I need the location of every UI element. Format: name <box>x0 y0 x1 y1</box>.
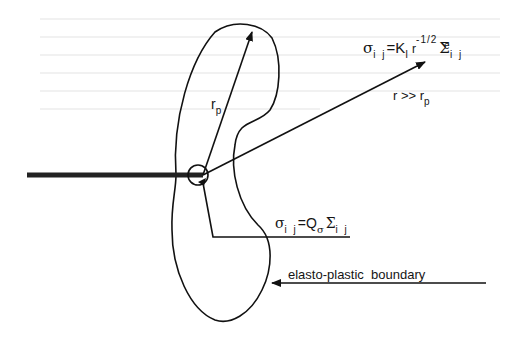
exponent: -1/2 <box>416 34 437 45</box>
ij-subscript: i j <box>285 224 298 235</box>
sigma-symbol: σ <box>275 215 285 231</box>
ij-subscript: i j <box>450 49 463 60</box>
boundary-label: elasto-plastic boundary <box>288 268 425 281</box>
sigma-subscript: σ <box>317 224 326 235</box>
Q-symbol: Q <box>306 215 317 231</box>
sigma-symbol: σ <box>363 39 373 57</box>
equals-sign: = <box>386 39 395 56</box>
ij-subscript: i j <box>336 224 349 235</box>
far-field-text: r >> r <box>393 88 424 103</box>
ij-subscript: i j <box>373 49 386 60</box>
I-subscript: I <box>405 49 410 60</box>
p-subscript: p <box>216 105 224 116</box>
elastic-stress-equation: σi j=KIr-1/2Σei j <box>363 40 463 56</box>
plastic-stress-equation: σi j=QσΣi j <box>275 216 349 230</box>
far-field-label: r >> rp <box>393 89 432 102</box>
r-symbol: r <box>211 96 216 112</box>
p-subscript: p <box>424 96 432 107</box>
Sigma-symbol: Σ <box>326 215 336 231</box>
plastic-radius-label: rp <box>211 97 223 111</box>
K-symbol: K <box>395 39 405 56</box>
equals-sign: = <box>298 215 306 231</box>
